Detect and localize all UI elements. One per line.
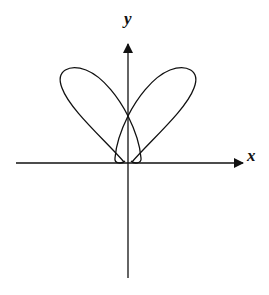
x-axis-label: x	[247, 146, 256, 166]
polar-curve-diagram	[0, 0, 269, 295]
y-axis-label: y	[124, 9, 132, 29]
